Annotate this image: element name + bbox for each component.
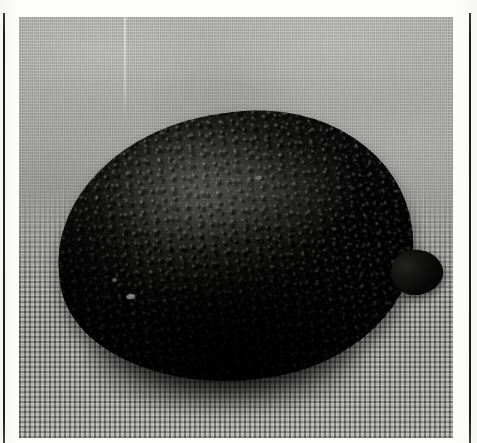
- scanned-page: [0, 0, 477, 443]
- figure-photograph: [19, 17, 453, 438]
- pitted-lemon: [42, 92, 428, 401]
- fruit-shading: [42, 92, 428, 401]
- right-column-rule: [469, 13, 471, 443]
- scan-streak-artifact: [124, 17, 126, 121]
- left-column-rule: [3, 13, 5, 443]
